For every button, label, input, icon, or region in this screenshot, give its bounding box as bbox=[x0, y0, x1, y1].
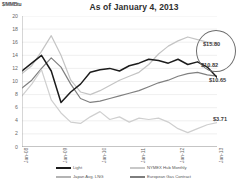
y-tick-12: 12 bbox=[4, 66, 18, 71]
x-tick-jan-12: Jan-12 bbox=[180, 148, 185, 163]
chart-legend: Light NYMEX Hub Monthly Japan Avg. LNG E… bbox=[56, 163, 206, 183]
y-tick-16: 16 bbox=[4, 40, 18, 45]
series-lines bbox=[22, 36, 217, 133]
legend-label-nymex-hub-monthly: NYMEX Hub Monthly bbox=[147, 166, 187, 170]
y-tick-14: 14 bbox=[4, 53, 18, 58]
x-tick-jan-09: Jan-09 bbox=[63, 148, 68, 163]
y-tick-6: 6 bbox=[4, 105, 18, 110]
chart-container: $/MMBtu As of January 4, 2013 0246810121… bbox=[0, 0, 240, 186]
y-tick-8: 8 bbox=[4, 92, 18, 97]
chart-title: As of January 4, 2013 bbox=[0, 2, 240, 12]
callout-japan-lng: $15.80 bbox=[203, 41, 220, 47]
callout-nymex-hub: $3.71 bbox=[213, 116, 227, 122]
x-tick-jan-10: Jan-10 bbox=[102, 148, 107, 163]
legend-label-japan-avg-lng: Japan Avg. LNG bbox=[73, 175, 103, 179]
y-tick-4: 4 bbox=[4, 118, 18, 123]
callout-light: $10.65 bbox=[209, 77, 226, 83]
legend-swatch-european-gas-contract bbox=[130, 176, 145, 178]
legend-swatch-japan-avg-lng bbox=[56, 176, 71, 178]
legend-label-light: Light bbox=[73, 166, 82, 170]
y-tick-0: 0 bbox=[4, 145, 18, 150]
plot-svg bbox=[22, 16, 217, 147]
plot-area bbox=[22, 16, 217, 147]
legend-swatch-nymex-hub-monthly bbox=[130, 167, 145, 169]
y-tick-20: 20 bbox=[4, 14, 18, 19]
callout-european-gas: $10.82 bbox=[201, 62, 218, 68]
y-tick-10: 10 bbox=[4, 79, 18, 84]
x-tick-jan-11: Jan-11 bbox=[141, 148, 146, 163]
legend-item-nymex-hub-monthly[interactable]: NYMEX Hub Monthly bbox=[130, 166, 206, 170]
legend-swatch-light bbox=[56, 167, 71, 169]
x-tick-jan-08: Jan-08 bbox=[24, 148, 29, 163]
y-tick-18: 18 bbox=[4, 27, 18, 32]
legend-item-japan-avg-lng[interactable]: Japan Avg. LNG bbox=[56, 175, 130, 179]
legend-item-european-gas-contract[interactable]: European Gas Contract bbox=[130, 175, 206, 179]
series-line-nymex-hub-monthly bbox=[22, 70, 217, 133]
x-tick-jan-13: Jan-13 bbox=[219, 148, 224, 163]
legend-label-european-gas-contract: European Gas Contract bbox=[147, 175, 191, 179]
legend-item-light[interactable]: Light bbox=[56, 166, 130, 170]
chart-title-text: As of January 4, 2013 bbox=[89, 2, 178, 12]
y-tick-2: 2 bbox=[4, 131, 18, 136]
